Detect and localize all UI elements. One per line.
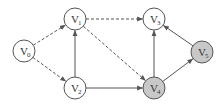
node-subscript: 3 (157, 19, 161, 27)
node-subscript: 0 (27, 51, 31, 59)
node-v2: V2 (64, 77, 86, 99)
node-v3: V3 (143, 8, 165, 30)
edge-v1-v4 (83, 26, 145, 80)
node-subscript: 1 (78, 19, 82, 27)
graph-canvas: V0V1V2V3V4V5 (0, 0, 224, 108)
node-layer: V0V1V2V3V4V5 (13, 8, 213, 99)
node-subscript: 2 (78, 88, 82, 96)
node-v1: V1 (64, 8, 86, 30)
node-v4: V4 (143, 77, 165, 99)
node-subscript: 5 (205, 52, 209, 60)
graph-diagram: V0V1V2V3V4V5 (0, 0, 224, 108)
node-subscript: 4 (157, 88, 161, 96)
node-v0: V0 (13, 40, 35, 62)
node-v5: V5 (191, 41, 213, 63)
edge-v5-v3 (163, 26, 192, 46)
edge-v4-v5 (163, 59, 193, 82)
edge-layer (33, 19, 193, 88)
edge-v0-v2 (33, 57, 66, 81)
edge-v0-v1 (33, 25, 65, 45)
